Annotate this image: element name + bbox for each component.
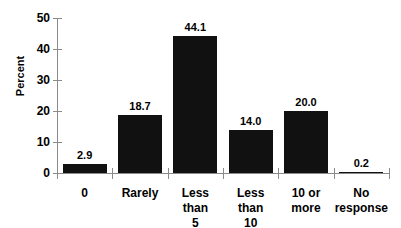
x-axis-category-label: Noresponse [334,186,389,216]
x-axis-category-label-line: 0 [57,186,112,201]
y-axis-tick-label: 50 [24,12,50,24]
bar [63,164,107,173]
bar-value-label: 2.9 [55,149,115,161]
y-axis-tick [53,80,62,81]
bar [284,111,328,173]
x-axis-category-label-line: 5 [168,216,223,228]
x-axis-category-label-line: response [334,201,389,216]
x-axis-tick [334,168,335,179]
y-axis-tick [53,49,62,50]
x-axis-tick [112,168,113,179]
x-axis-category-label: 10 ormore [278,186,333,216]
x-axis-category-label-line: 10 [223,216,278,228]
x-axis-tick [389,168,390,179]
bar [118,115,162,173]
x-axis-category-label-line: more [278,201,333,216]
bar [229,130,273,173]
x-axis-category-label: Rarely [112,186,167,201]
bar-value-label: 0.2 [331,157,391,169]
y-axis-tick-label: 0 [24,167,50,179]
bar-chart: Percent 50403020100 2.918.744.114.020.00… [0,0,401,228]
x-axis-category-label-line: No [334,186,389,201]
y-axis-tick [53,142,62,143]
bar [339,172,383,174]
y-axis-tick-label: 10 [24,136,50,148]
x-axis-tick [57,168,58,179]
x-axis-category-label-line: Rarely [112,186,167,201]
bar-value-label: 18.7 [110,100,170,112]
x-axis-category-label: Less than5 [168,186,223,228]
y-axis-tick-labels: 50403020100 [22,0,50,228]
x-axis-category-label: 0 [57,186,112,201]
x-axis-category-label-line: Less than [168,186,223,216]
y-axis-tick-label: 30 [24,74,50,86]
y-axis-tick-label: 40 [24,43,50,55]
x-axis-tick [168,168,169,179]
x-axis-tick [278,168,279,179]
bar-value-label: 20.0 [276,96,336,108]
x-axis-category-label: Less than10 [223,186,278,228]
bar-value-label: 14.0 [221,115,281,127]
y-axis-tick [53,111,62,112]
bar [173,36,217,173]
x-axis-category-label-line: 10 or [278,186,333,201]
x-axis-category-label-line: Less than [223,186,278,216]
y-axis-tick [53,18,62,19]
bar-value-label: 44.1 [165,21,225,33]
y-axis-tick-label: 20 [24,105,50,117]
x-axis-tick [223,168,224,179]
